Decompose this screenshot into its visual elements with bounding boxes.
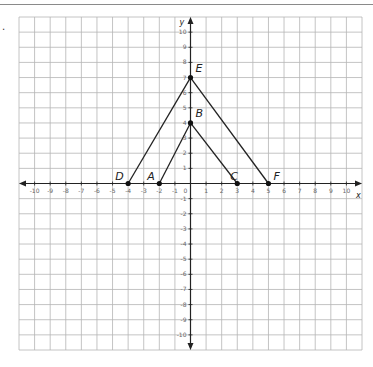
x-tick-label: -10 bbox=[30, 187, 40, 194]
y-tick-label: -3 bbox=[181, 225, 187, 232]
point-label-d: D bbox=[115, 170, 123, 183]
point-label-a: A bbox=[146, 170, 155, 183]
point-label-e: E bbox=[196, 62, 203, 75]
x-tick-label: 1 bbox=[204, 187, 208, 194]
x-tick-label: -4 bbox=[125, 187, 131, 194]
x-tick-label: 3 bbox=[235, 187, 239, 194]
point-d bbox=[126, 181, 131, 186]
x-tick-label: -9 bbox=[47, 187, 53, 194]
x-tick-label: 6 bbox=[282, 187, 286, 194]
point-a bbox=[157, 181, 162, 186]
y-tick-label: -2 bbox=[181, 210, 187, 217]
coordinate-plane: xy -10-9-8-7-6-5-4-3-2-10123456789101098… bbox=[0, 0, 373, 367]
y-axis-up-arrow-icon bbox=[188, 17, 194, 24]
point-b bbox=[188, 120, 193, 125]
y-tick-label: -6 bbox=[181, 270, 187, 277]
y-tick-label: 5 bbox=[183, 104, 187, 111]
x-tick-label: 4 bbox=[251, 187, 255, 194]
x-tick-label: -6 bbox=[94, 187, 100, 194]
points: ABCDEF bbox=[115, 62, 280, 187]
x-axis-left-arrow-icon bbox=[19, 181, 26, 187]
point-f bbox=[266, 181, 271, 186]
y-tick-label: -9 bbox=[181, 316, 187, 323]
y-tick-label: -1 bbox=[181, 195, 187, 202]
x-tick-label: -5 bbox=[110, 187, 116, 194]
point-label-f: F bbox=[273, 170, 280, 183]
point-label-b: B bbox=[196, 107, 204, 120]
x-tick-label: -8 bbox=[63, 187, 69, 194]
x-tick-label: -1 bbox=[172, 187, 178, 194]
x-tick-label: 9 bbox=[329, 187, 333, 194]
triangle-segments bbox=[128, 78, 268, 184]
x-axis-right-arrow-icon bbox=[355, 181, 362, 187]
axes: xy bbox=[19, 17, 362, 350]
point-e bbox=[188, 75, 193, 80]
y-tick-label: 1 bbox=[183, 164, 187, 171]
y-tick-label: -10 bbox=[177, 331, 187, 338]
x-tick-label: 5 bbox=[267, 187, 271, 194]
y-tick-label: 7 bbox=[183, 74, 187, 81]
y-tick-label: 10 bbox=[179, 28, 187, 35]
x-tick-label: 7 bbox=[298, 187, 302, 194]
x-tick-label: 2 bbox=[220, 187, 224, 194]
x-tick-label: 8 bbox=[313, 187, 317, 194]
y-tick-label: -7 bbox=[181, 285, 187, 292]
y-tick-label: 8 bbox=[183, 58, 187, 65]
x-tick-label: 0 bbox=[184, 187, 188, 194]
y-tick-label: -5 bbox=[181, 255, 187, 262]
y-axis-down-arrow-icon bbox=[188, 343, 194, 350]
segment-EF bbox=[191, 78, 269, 184]
x-tick-label: -7 bbox=[78, 187, 84, 194]
y-tick-label: 4 bbox=[183, 119, 187, 126]
x-axis-label: x bbox=[355, 191, 361, 200]
point-label-c: C bbox=[230, 170, 238, 183]
y-tick-label: 9 bbox=[183, 43, 187, 50]
x-tick-label: -3 bbox=[141, 187, 147, 194]
y-tick-label: -4 bbox=[181, 240, 187, 247]
y-tick-label: 2 bbox=[183, 149, 187, 156]
x-tick-label: -2 bbox=[156, 187, 162, 194]
y-tick-label: -8 bbox=[181, 301, 187, 308]
x-tick-label: 10 bbox=[343, 187, 351, 194]
y-axis-label: y bbox=[179, 18, 185, 27]
